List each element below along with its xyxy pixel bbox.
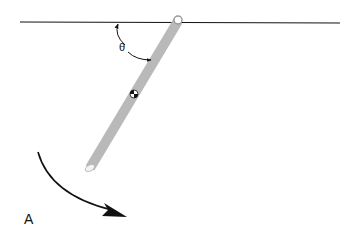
center-of-mass-icon <box>130 90 138 98</box>
rotation-arrowhead-icon <box>102 203 127 217</box>
pendulum-diagram <box>0 0 361 244</box>
rotation-arrow <box>38 152 112 210</box>
angle-arc-lower <box>128 52 151 60</box>
angle-label: θ <box>119 41 125 53</box>
pivot-icon <box>174 16 182 24</box>
panel-label: A <box>24 211 33 227</box>
